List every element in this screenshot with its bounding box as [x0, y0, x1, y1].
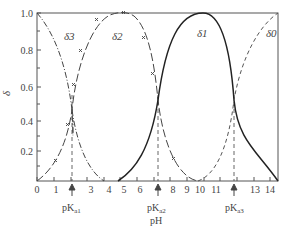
x-tick-label: 0	[35, 184, 40, 195]
x-tick-label: 1	[54, 184, 59, 195]
x-tick-label: 6	[138, 184, 143, 195]
delta2-label: δ2	[112, 30, 123, 42]
x-tick-label: 5	[122, 184, 127, 195]
delta0-label: δ0	[266, 27, 277, 39]
y-tick-label: 0.2	[21, 146, 34, 157]
pka1-label: pKa1	[62, 202, 81, 215]
x-tick-label: 4	[107, 184, 112, 195]
delta1-label: δ1	[197, 27, 208, 39]
x-tick-label: 10	[195, 184, 205, 195]
x-axis-label: pH	[150, 215, 162, 226]
x-tick-label: 14	[265, 184, 275, 195]
delta3-label: δ3	[64, 30, 75, 42]
x-tick-label: 3	[89, 184, 94, 195]
y-tick-label: 0.6	[21, 82, 34, 93]
x-tick-label: 13	[250, 184, 260, 195]
y-ticks	[37, 13, 41, 166]
pka3-label: pKa3	[225, 202, 244, 215]
x-tick-label: 11	[211, 184, 221, 195]
species-distribution-chart: 1.0 0.8 0.6 0.4 0.2 δ 0 1 3 4 5 6 8 9 10…	[0, 0, 284, 226]
y-axis-label: δ	[0, 90, 12, 96]
y-tick-label: 1.0	[21, 8, 34, 19]
x-tick-label: 8	[171, 184, 176, 195]
x-tick-label: 9	[185, 184, 190, 195]
pka2-label: pKa2	[147, 202, 166, 215]
y-tick-label: 0.4	[21, 116, 34, 127]
pka-lines	[72, 95, 234, 181]
curve-delta3-tail	[72, 110, 104, 181]
y-tick-label: 0.8	[21, 45, 34, 56]
